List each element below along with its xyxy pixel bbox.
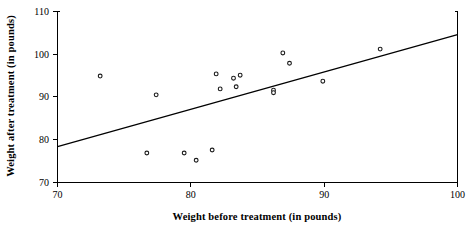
x-tick-label-90: 90 xyxy=(319,189,329,200)
y-tick-label-100: 100 xyxy=(34,49,49,60)
data-point xyxy=(154,93,158,97)
data-point xyxy=(218,87,222,91)
data-point xyxy=(145,151,149,155)
data-point xyxy=(194,158,198,162)
scatter-chart: 70 80 90 100 110 70 80 90 100 Weight bef… xyxy=(0,0,474,232)
data-point xyxy=(272,91,276,95)
data-point xyxy=(378,47,382,51)
x-tick-label-100: 100 xyxy=(450,189,465,200)
data-point xyxy=(182,151,186,155)
y-tick-label-70: 70 xyxy=(39,177,49,188)
x-tick-label-70: 70 xyxy=(53,189,63,200)
x-axis-title: Weight before treatment (in pounds) xyxy=(173,211,342,223)
data-point xyxy=(98,74,102,78)
data-point xyxy=(238,73,242,77)
x-tick-label-80: 80 xyxy=(186,189,196,200)
data-point xyxy=(232,76,236,80)
y-tick-label-90: 90 xyxy=(39,91,49,102)
data-point xyxy=(234,85,238,89)
y-axis-title: Weight after treatment (in pounds) xyxy=(5,15,17,177)
data-point xyxy=(214,72,218,76)
y-tick-label-80: 80 xyxy=(39,134,49,145)
data-point xyxy=(321,79,325,83)
y-tick-label-110: 110 xyxy=(34,6,49,17)
chart-canvas: 70 80 90 100 110 70 80 90 100 Weight bef… xyxy=(0,0,474,232)
data-point xyxy=(210,148,214,152)
data-point xyxy=(288,61,292,65)
chart-background xyxy=(0,0,474,232)
data-point xyxy=(281,51,285,55)
